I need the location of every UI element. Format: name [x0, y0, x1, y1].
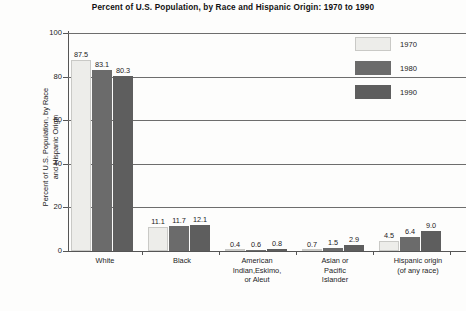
category-label-asian-pacific-islander-line2: Pacific [298, 266, 372, 276]
value-label-asian-pacific-islander-1990: 2.9 [341, 235, 367, 244]
bar-american-indian-1990[interactable] [267, 249, 287, 251]
value-label-american-indian-1990: 0.8 [264, 239, 290, 248]
y-tick-label-20: 20 [36, 202, 62, 211]
x-tick-separator-1 [142, 251, 143, 255]
bar-asian-pacific-islander-1990[interactable] [344, 245, 364, 251]
chart-figure: Percent of U.S. Population, by Race and … [0, 0, 466, 311]
legend-swatch-1970 [355, 37, 391, 51]
x-tick-separator-3 [296, 251, 297, 255]
category-label-american-indian-line2: Indian,Eskimo, [218, 266, 296, 276]
category-label-black: Black [145, 256, 219, 266]
legend-item-1990[interactable]: 1990 [355, 85, 417, 99]
bar-white-1970[interactable] [71, 60, 91, 251]
value-label-white-1970: 87.5 [68, 50, 94, 59]
category-label-white-line1: White [68, 256, 142, 266]
y-tick-label-100: 100 [36, 28, 62, 37]
y-tick-mark-0 [63, 251, 68, 252]
category-label-asian-pacific-islander-line1: Asian or [298, 256, 372, 266]
y-tick-label-60: 60 [36, 115, 62, 124]
value-label-hispanic-origin-1990: 9.0 [418, 221, 444, 230]
legend-label-1980: 1980 [400, 64, 417, 73]
bar-white-1990[interactable] [113, 76, 133, 251]
category-label-hispanic-origin-line1: Hispanic origin [372, 256, 464, 266]
legend-label-1990: 1990 [400, 88, 417, 97]
bar-black-1990[interactable] [190, 225, 210, 251]
category-label-hispanic-origin-line2: (of any race) [372, 266, 464, 276]
bar-hispanic-origin-1980[interactable] [400, 237, 420, 251]
legend-item-1970[interactable]: 1970 [355, 37, 417, 51]
value-label-black-1990: 12.1 [187, 215, 213, 224]
category-label-american-indian: American Indian,Eskimo, or Aleut [218, 256, 296, 285]
legend-swatch-1990 [355, 85, 391, 99]
chart-title: Percent of U.S. Population, by Race and … [0, 3, 466, 12]
bar-hispanic-origin-1970[interactable] [379, 241, 399, 251]
bar-american-indian-1980[interactable] [246, 250, 266, 251]
y-tick-label-0: 0 [36, 246, 62, 255]
y-tick-label-40: 40 [36, 159, 62, 168]
bar-asian-pacific-islander-1980[interactable] [323, 248, 343, 251]
y-axis-tick-labels: 100 80 60 40 20 0 [36, 33, 62, 251]
x-tick-separator-4 [373, 251, 374, 255]
chart-legend: 1970 1980 1990 [355, 37, 417, 109]
bars-american-indian [225, 33, 287, 251]
bar-asian-pacific-islander-1970[interactable] [302, 249, 322, 251]
y-tick-label-80: 80 [36, 72, 62, 81]
bar-black-1970[interactable] [148, 227, 168, 251]
category-label-american-indian-line1: American [218, 256, 296, 266]
bar-white-1980[interactable] [92, 70, 112, 251]
bar-hispanic-origin-1990[interactable] [421, 231, 441, 251]
bar-american-indian-1970[interactable] [225, 249, 245, 251]
category-label-asian-pacific-islander: Asian or Pacific Islander [298, 256, 372, 285]
value-label-white-1990: 80.3 [110, 66, 136, 75]
x-tick-separator-2 [219, 251, 220, 255]
legend-label-1970: 1970 [400, 40, 417, 49]
x-axis-spine [68, 251, 466, 252]
category-label-american-indian-line3: or Aleut [218, 275, 296, 285]
bar-black-1980[interactable] [169, 226, 189, 252]
category-label-black-line1: Black [145, 256, 219, 266]
category-label-asian-pacific-islander-line3: Islander [298, 275, 372, 285]
legend-swatch-1980 [355, 61, 391, 75]
category-label-white: White [68, 256, 142, 266]
legend-item-1980[interactable]: 1980 [355, 61, 417, 75]
category-label-hispanic-origin: Hispanic origin (of any race) [372, 256, 464, 275]
x-tick-separator-5 [450, 251, 451, 255]
